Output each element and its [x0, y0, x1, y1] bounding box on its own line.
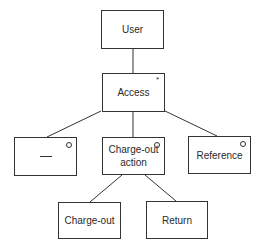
label-line-2: action — [120, 157, 147, 168]
circle-marker-icon — [154, 142, 160, 148]
node-chargeout: Charge-out — [58, 202, 121, 239]
node-reference: Reference — [188, 136, 251, 174]
dash-icon — [40, 156, 52, 157]
node-blank — [14, 137, 77, 176]
node-user-label: User — [122, 23, 143, 36]
edge-access-reference — [165, 111, 217, 136]
node-user: User — [101, 10, 164, 49]
node-chargeout-label: Charge-out — [64, 214, 114, 227]
circle-marker-icon — [240, 141, 246, 147]
edge-access-blank — [47, 111, 101, 137]
node-access: Access * — [102, 73, 165, 112]
node-chargeout-action-label: Charge-out action — [108, 143, 158, 169]
label-line-1: Charge-out — [108, 144, 158, 155]
circle-marker-icon — [66, 142, 72, 148]
edge-chargeout-action-return — [145, 175, 176, 201]
edge-chargeout-action-chargeout — [90, 175, 122, 202]
asterisk-marker-icon: * — [156, 76, 159, 84]
node-return: Return — [146, 201, 208, 239]
node-chargeout-action: Charge-out action — [102, 137, 165, 175]
node-access-label: Access — [117, 86, 149, 99]
node-return-label: Return — [162, 214, 192, 227]
node-reference-label: Reference — [196, 149, 242, 162]
